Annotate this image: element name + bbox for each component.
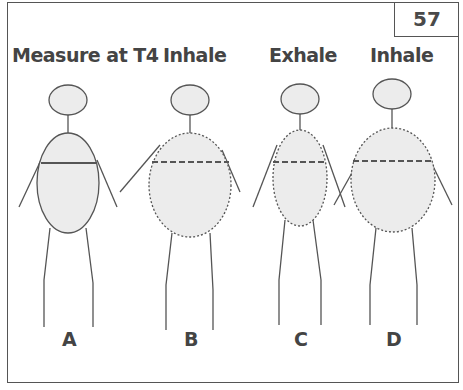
right-leg — [210, 233, 213, 330]
panel-label-d: D — [386, 328, 402, 350]
figure-d — [334, 79, 452, 325]
left-leg — [44, 228, 50, 327]
torso — [149, 133, 231, 237]
figure-a — [19, 85, 117, 327]
torso — [37, 133, 99, 233]
right-leg — [86, 228, 93, 327]
head — [281, 84, 319, 114]
panel-label-b: B — [184, 328, 198, 350]
figure-b — [120, 85, 240, 330]
torso — [273, 130, 327, 226]
panel-label-c: C — [294, 328, 308, 350]
left-leg — [279, 220, 285, 325]
left-leg — [166, 233, 172, 330]
left-leg — [370, 228, 376, 325]
head — [373, 79, 411, 109]
right-leg — [313, 220, 321, 325]
head — [49, 85, 87, 115]
right-leg — [412, 228, 417, 325]
torso — [351, 128, 435, 232]
head — [171, 85, 209, 115]
panel-label-a: A — [62, 328, 77, 350]
figure-c — [253, 84, 345, 325]
right-arm — [97, 160, 117, 207]
